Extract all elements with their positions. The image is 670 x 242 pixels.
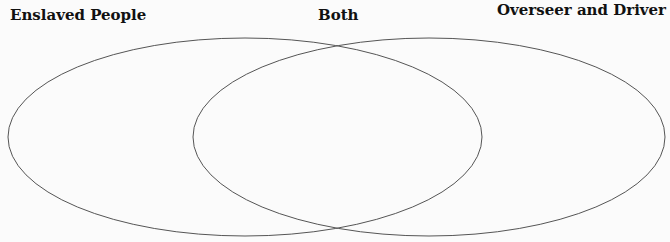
right-ellipse <box>193 38 665 236</box>
venn-diagram <box>0 0 670 242</box>
left-ellipse <box>8 38 482 236</box>
